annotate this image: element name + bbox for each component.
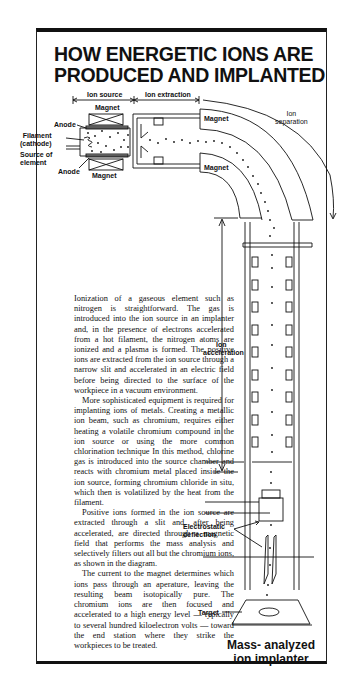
article-body: Ionization of a gaseous element such as …: [74, 294, 234, 651]
label-ion-source: Ion source: [87, 91, 122, 99]
label-filament-line-1: Filament: [20, 132, 52, 140]
label-filament: Filament (cathode): [20, 132, 52, 148]
paragraph: Ionization of a gaseous element such as …: [74, 294, 234, 396]
label-separation-line-2: separation: [275, 118, 308, 126]
caption-line-2: ion implanter: [216, 652, 326, 666]
label-anode-top: Anode: [54, 121, 76, 129]
label-ion-extraction: Ion extraction: [145, 91, 191, 99]
label-magnet-top: Magnet: [95, 104, 120, 112]
label-magnet-bend-outer: Magnet: [204, 115, 229, 123]
label-source-line-1: Source of: [20, 151, 52, 159]
label-anode-bottom: Anode: [58, 168, 80, 176]
label-source-of-element: Source of element: [20, 151, 52, 167]
label-source-line-2: element: [20, 159, 52, 167]
label-filament-line-2: (cathode): [20, 140, 52, 148]
label-ion-separation: Ion separation: [275, 110, 308, 126]
paragraph: The current to the magnet determines whi…: [74, 569, 234, 651]
label-magnet-bend-inner: Magnet: [204, 164, 229, 172]
label-magnet-bottom: Magnet: [92, 172, 117, 180]
label-separation-line-1: Ion: [275, 110, 308, 118]
paragraph: More sophisticated equipment is required…: [74, 396, 234, 508]
paragraph: Positive ions formed in the ion source a…: [74, 508, 234, 569]
